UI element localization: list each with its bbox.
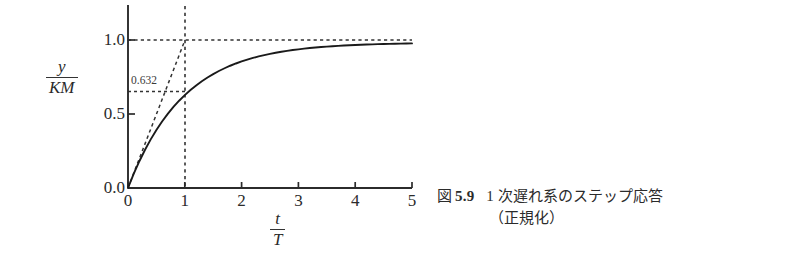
y-axis-label: y KM xyxy=(46,58,78,97)
x-axis-label-numerator: t xyxy=(270,210,285,229)
x-axis-label-denominator: T xyxy=(270,229,285,249)
y-axis-label-numerator: y xyxy=(46,58,78,77)
y-tick-label-05: 0.5 xyxy=(87,104,125,124)
y-axis-ticks xyxy=(128,40,135,188)
x-tick-label-2: 2 xyxy=(232,191,252,211)
figure-caption: 図5.91 次遅れ系のステップ応答 （正規化） xyxy=(437,186,787,230)
caption-figure-number: 5.9 xyxy=(455,188,474,204)
x-tick-label-0: 0 xyxy=(118,191,138,211)
caption-title: 1 次遅れ系のステップ応答 xyxy=(486,188,662,204)
caption-figure-word: 図 xyxy=(437,188,452,204)
step-response-chart xyxy=(0,0,440,267)
plot-panel: y KM t T 1.0 0.5 0.0 0 1 2 3 4 5 0.632 xyxy=(0,0,440,267)
y-axis-label-denominator: KM xyxy=(46,77,78,97)
x-tick-label-5: 5 xyxy=(402,191,422,211)
y-tick-label-1: 1.0 xyxy=(87,30,125,50)
x-tick-label-4: 4 xyxy=(345,191,365,211)
figure-container: y KM t T 1.0 0.5 0.0 0 1 2 3 4 5 0.632 図… xyxy=(0,0,790,267)
series-step-response xyxy=(128,43,412,188)
annotation-value-0632: 0.632 xyxy=(131,74,157,86)
caption-line-primary: 図5.91 次遅れ系のステップ応答 xyxy=(437,186,787,208)
x-axis-label: t T xyxy=(270,210,285,249)
x-tick-label-1: 1 xyxy=(175,191,195,211)
caption-subtitle: （正規化） xyxy=(489,208,787,230)
x-tick-label-3: 3 xyxy=(288,191,308,211)
